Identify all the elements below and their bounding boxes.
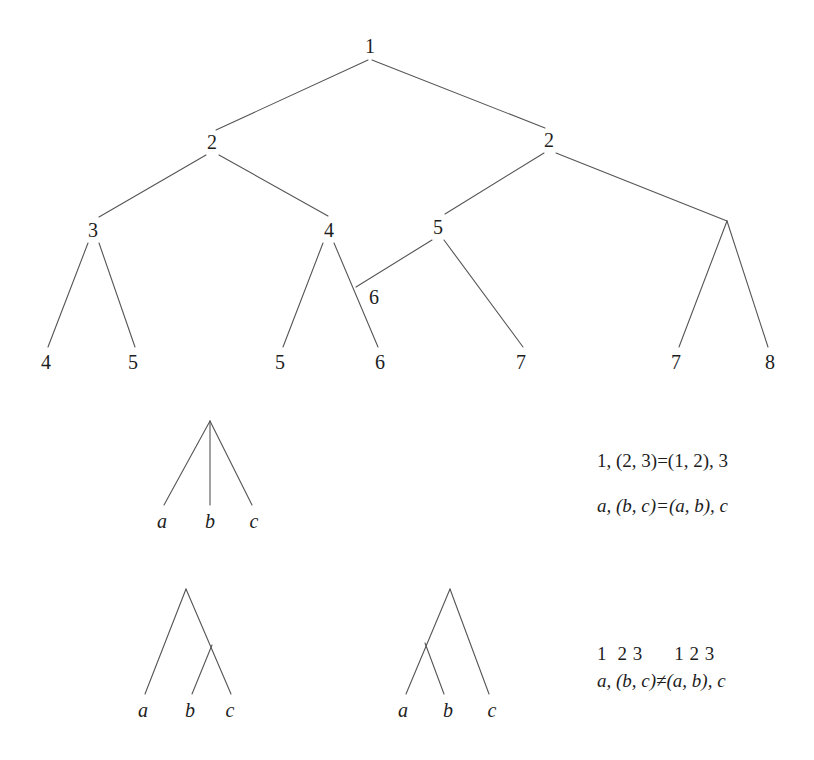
- right-branching-leaf-a: a: [138, 700, 148, 720]
- left-branching-leaf-c: c: [488, 700, 497, 720]
- flat-tree-leaf-c: c: [250, 511, 259, 531]
- edge-five-leaf7: [444, 240, 523, 347]
- tree-node-five: 5: [433, 217, 443, 237]
- annotation-associativity-numeric: 1, (2, 3)=(1, 2), 3: [597, 450, 728, 472]
- edge-rb-apex-a: [145, 589, 186, 694]
- tree-leaf-eight: 8: [765, 352, 775, 372]
- edge-root-left: [216, 60, 368, 130]
- edge-three-leaf4: [48, 243, 88, 347]
- edge-flat-a: [164, 421, 210, 505]
- tree-node-level2-right: 2: [544, 130, 554, 150]
- tree-node-six: 6: [369, 287, 379, 307]
- tree-node-root: 1: [365, 36, 375, 56]
- right-branching-leaf-c: c: [226, 700, 235, 720]
- edge-rb-apex-inner: [186, 589, 231, 694]
- edge-junction-leaf8: [727, 221, 768, 347]
- figure-root: 1 2 2 3 4 5 6 4 5 5 6 7 7 8 a b c a b c …: [0, 0, 814, 760]
- edge-root-right: [372, 60, 545, 128]
- tree-leaf-five-second: 5: [275, 352, 285, 372]
- tree-leaf-six: 6: [375, 352, 385, 372]
- edge-lb-apex-inner: [406, 589, 450, 694]
- edge-left2-three: [99, 155, 206, 217]
- edge-rb-inner-b: [192, 645, 212, 694]
- edge-lb-apex-c: [450, 589, 489, 694]
- flat-tree-leaf-a: a: [157, 511, 167, 531]
- tree-node-four: 4: [324, 220, 334, 240]
- tree-leaf-five-first: 5: [128, 352, 138, 372]
- annotation-order-symbolic: a, (b, c)≠(a, b), c: [597, 670, 726, 692]
- edge-three-leaf5: [99, 243, 135, 347]
- tree-node-three: 3: [88, 220, 98, 240]
- left-branching-leaf-b: b: [443, 700, 453, 720]
- edge-left2-four: [219, 155, 328, 216]
- tree-leaf-four: 4: [41, 352, 51, 372]
- edge-five-node6: [356, 240, 432, 287]
- tree-node-level2-left: 2: [207, 132, 217, 152]
- edge-junction-leaf7: [679, 221, 727, 347]
- left-branching-leaf-a: a: [398, 700, 408, 720]
- edge-flat-c: [210, 421, 252, 505]
- annotation-associativity-symbolic: a, (b, c)=(a, b), c: [597, 495, 728, 517]
- flat-tree-leaf-b: b: [205, 511, 215, 531]
- tree-leaf-seven-first: 7: [516, 352, 526, 372]
- tree-leaf-seven-second: 7: [671, 352, 681, 372]
- edge-four-leaf5: [283, 243, 323, 347]
- edge-right2-five: [445, 153, 544, 214]
- edge-right2-junction: [556, 153, 727, 221]
- edge-lb-inner-b: [425, 643, 444, 694]
- right-branching-leaf-b: b: [185, 700, 195, 720]
- annotation-order-numeric: 1 2 3 1 2 3: [597, 643, 715, 665]
